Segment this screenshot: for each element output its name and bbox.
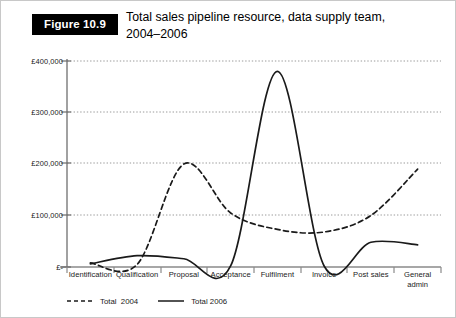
y-tick-400000: £400,000 bbox=[5, 57, 63, 66]
legend-item-total-2006: Total 2006 bbox=[158, 297, 227, 306]
x-tick-general-admin: General admin bbox=[394, 270, 441, 296]
legend-label-total-2004: Total 2004 bbox=[100, 297, 138, 306]
y-tick-100000: £100,000 bbox=[5, 211, 63, 220]
x-tick-invoice: Invoice bbox=[301, 270, 348, 296]
y-tick-300000: £300,000 bbox=[5, 108, 63, 117]
legend-item-total-2004: Total 2004 bbox=[67, 297, 138, 306]
y-tick-200000: £200,000 bbox=[5, 159, 63, 168]
y-axis-tick-labels: £400,000 £300,000 £200,000 £100,000 £- bbox=[1, 1, 63, 318]
legend-swatch-dashed-icon bbox=[67, 297, 93, 305]
x-tick-post-sales: Post sales bbox=[348, 270, 395, 296]
legend-swatch-solid-icon bbox=[158, 297, 184, 305]
chart-plot-area: £400,000 £300,000 £200,000 £100,000 £- I… bbox=[1, 1, 456, 318]
chart-series-layer bbox=[90, 71, 417, 278]
series-line-total-2006 bbox=[90, 71, 417, 278]
x-tick-fulfilment: Fulfilment bbox=[254, 270, 301, 296]
legend-label-total-2006: Total 2006 bbox=[191, 297, 227, 306]
gridlines bbox=[67, 61, 441, 215]
figure-container: Figure 10.9 Total sales pipeline resourc… bbox=[0, 0, 456, 318]
chart-legend: Total 2004 Total 2006 bbox=[67, 293, 247, 309]
y-tick-zero: £- bbox=[5, 263, 63, 272]
